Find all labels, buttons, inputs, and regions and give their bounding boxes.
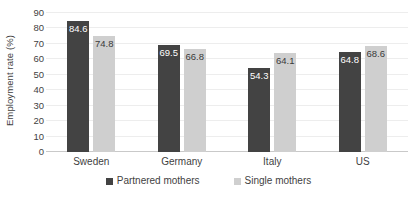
bar-group: 69.566.8 <box>158 13 206 152</box>
y-tick-label: 0 <box>39 147 44 157</box>
bar-group: 54.364.1 <box>248 13 296 152</box>
bar[interactable]: 68.6 <box>365 46 387 152</box>
bar-value-label: 64.1 <box>274 56 296 66</box>
y-tick-label: 50 <box>33 70 44 80</box>
bar[interactable]: 64.1 <box>274 53 296 152</box>
legend-label: Partnered mothers <box>117 176 200 186</box>
y-tick-label: 90 <box>33 8 44 18</box>
y-axis-tick-labels: 0102030405060708090 <box>18 13 44 152</box>
bar[interactable]: 54.3 <box>248 68 270 152</box>
x-tick-label-us: US <box>356 156 370 168</box>
bar-value-label: 74.8 <box>93 39 115 49</box>
legend-swatch-icon <box>106 178 113 185</box>
legend-item[interactable]: Partnered mothers <box>106 176 200 186</box>
bar[interactable]: 66.8 <box>184 49 206 152</box>
chart-legend: Partnered mothersSingle mothers <box>0 176 417 186</box>
bar-value-label: 54.3 <box>248 71 270 81</box>
bar-value-label: 66.8 <box>184 52 206 62</box>
x-tick-label-sweden: Sweden <box>73 156 109 168</box>
y-tick-label: 20 <box>33 116 44 126</box>
plot-area: 84.674.869.566.854.364.164.868.6 <box>46 13 408 152</box>
y-tick-label: 60 <box>33 55 44 65</box>
bar[interactable]: 74.8 <box>93 36 115 152</box>
bar-value-label: 64.8 <box>339 55 361 65</box>
bar-value-label: 84.6 <box>67 24 89 34</box>
y-tick-label: 80 <box>33 24 44 34</box>
bar-group: 64.868.6 <box>339 13 387 152</box>
bar[interactable]: 64.8 <box>339 52 361 152</box>
legend-swatch-icon <box>234 178 241 185</box>
bar[interactable]: 84.6 <box>67 21 89 152</box>
y-tick-label: 70 <box>33 39 44 49</box>
bar-value-label: 69.5 <box>158 48 180 58</box>
y-tick-label: 40 <box>33 85 44 95</box>
bar[interactable]: 69.5 <box>158 45 180 152</box>
y-axis-title-label: Employment rate (%) <box>5 34 16 125</box>
bar-value-label: 68.6 <box>365 49 387 59</box>
y-tick-label: 10 <box>33 132 44 142</box>
x-axis-tick-labels: SwedenGermanyItalyUS <box>46 156 408 172</box>
legend-label: Single mothers <box>245 176 312 186</box>
x-tick-label-germany: Germany <box>161 156 202 168</box>
x-tick-label-italy: Italy <box>263 156 281 168</box>
y-tick-label: 30 <box>33 101 44 111</box>
bar-group: 84.674.8 <box>67 13 115 152</box>
legend-item[interactable]: Single mothers <box>234 176 312 186</box>
employment-rate-bar-chart: Employment rate (%) 0102030405060708090 … <box>0 0 417 200</box>
y-axis-title: Employment rate (%) <box>0 0 20 160</box>
